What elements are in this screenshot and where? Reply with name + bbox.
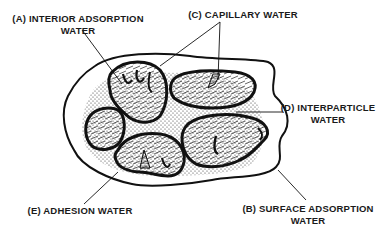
label-surface-adsorption-water: (B) SURFACE ADSORPTION WATER [240,203,376,227]
leader-line-b [278,170,306,200]
label-interparticle-water: (D) INTERPARTICLE WATER [276,102,380,126]
label-adhesion-water: (E) ADHESION WATER [24,205,136,217]
label-interior-adsorption-water: (A) INTERIOR ADSORPTION WATER [10,13,146,37]
particle-bottom-left [115,134,184,176]
label-capillary-water: (C) CAPILLARY WATER [182,9,304,21]
particle-left-small [86,108,125,149]
leader-line-e [84,172,118,204]
